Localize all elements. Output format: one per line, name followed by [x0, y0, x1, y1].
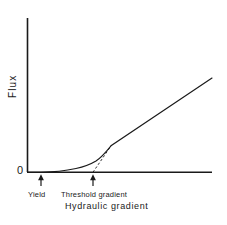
- flux-vs-hydraulic-gradient-figure: Flux 0 Yield Threshold gradient Hydrauli…: [0, 0, 227, 225]
- threshold-arrow-icon: [90, 174, 96, 186]
- yield-annotation-label: Yield: [28, 190, 45, 199]
- y-axis-label: Flux: [7, 75, 18, 98]
- threshold-annotation-label: Threshold gradient: [61, 190, 127, 199]
- x-axis-label: Hydraulic gradient: [65, 201, 148, 211]
- flux-curve: [28, 78, 213, 172]
- yield-arrow-icon: [38, 174, 44, 186]
- tangent-extrapolation-line: [93, 145, 112, 172]
- origin-tick-label: 0: [17, 164, 23, 176]
